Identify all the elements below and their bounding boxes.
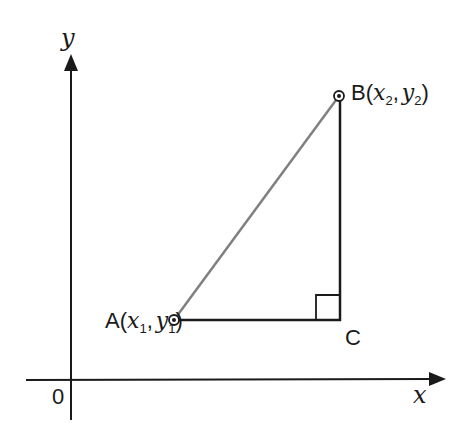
point-b-marker-icon bbox=[334, 91, 344, 101]
coordinate-diagram: y x 0 A(x1,y1) B(x2,y2) C bbox=[0, 0, 471, 444]
right-angle-marker bbox=[316, 295, 340, 320]
point-b-label: B(x2,y2) bbox=[351, 80, 429, 108]
origin-label: 0 bbox=[52, 384, 64, 409]
x-axis-label: x bbox=[413, 381, 427, 409]
y-axis-arrowhead-icon bbox=[64, 54, 78, 71]
x-axis-arrowhead-icon bbox=[429, 372, 446, 386]
segment-ab bbox=[174, 96, 339, 320]
y-axis bbox=[64, 54, 78, 420]
x-axis bbox=[26, 372, 446, 386]
point-c-label: C bbox=[345, 325, 361, 350]
point-a-label: A(x1,y1) bbox=[105, 308, 183, 336]
y-axis-label: y bbox=[60, 24, 75, 52]
